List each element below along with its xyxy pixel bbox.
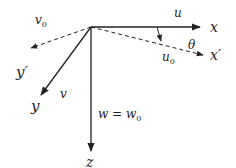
label-x: x <box>210 19 218 35</box>
label-w-sub: 0 <box>136 114 141 123</box>
y-prime-axis <box>31 27 91 48</box>
label-u0-sub: 0 <box>170 57 175 66</box>
label-w-main: w = w <box>98 107 137 121</box>
label-u0-main: u <box>162 50 170 64</box>
label-v: v <box>60 87 67 101</box>
rotation-arrow-icon <box>157 27 161 41</box>
label-v0: v0 <box>35 13 47 29</box>
label-y-prime: y′ <box>15 63 28 81</box>
label-x-prime: x′ <box>210 47 222 63</box>
coordinate-diagram: u x θ x′ u0 v0 y′ v y w = w0 z <box>0 0 236 168</box>
label-u: u <box>174 6 182 20</box>
label-v0-sub: 0 <box>42 20 47 29</box>
label-theta: θ <box>188 38 196 52</box>
label-w-eq-w0: w = w0 <box>98 107 141 123</box>
label-z: z <box>85 154 94 168</box>
label-u0: u0 <box>162 50 175 66</box>
label-y: y <box>30 97 40 115</box>
x-prime-axis <box>91 27 203 55</box>
y-axis <box>41 27 91 95</box>
